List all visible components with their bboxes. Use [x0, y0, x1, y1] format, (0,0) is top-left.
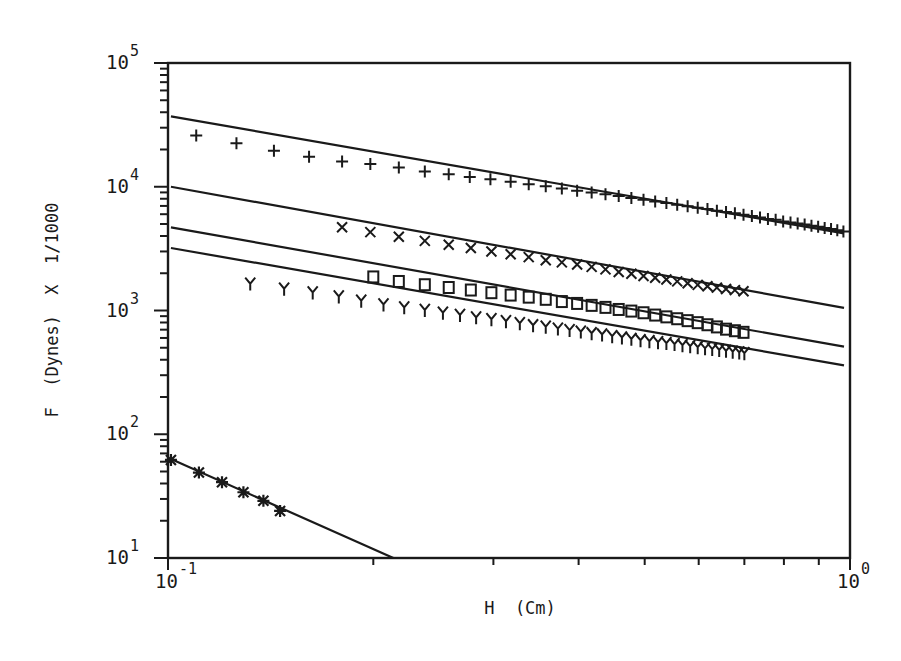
plus-marker: [649, 195, 661, 207]
y-marker: [607, 330, 617, 343]
y-axis-label: F (Dynes) X 1/1000: [42, 203, 62, 418]
x-tick-exponent: -1: [179, 560, 197, 578]
x-marker: [394, 232, 404, 242]
chart-canvas: 10110210310410510-1100 H (Cm) F (Dynes) …: [0, 0, 901, 661]
y-tick-exponent: 3: [130, 290, 139, 308]
x-marker: [365, 227, 375, 237]
y-marker: [279, 283, 289, 296]
y-tick-base: 10: [106, 175, 129, 197]
asterisk-marker: [257, 495, 269, 507]
plus-marker: [837, 225, 849, 237]
asterisk-marker: [274, 505, 286, 517]
x-tick-base: 10: [155, 570, 178, 592]
plus-marker: [738, 209, 750, 221]
plus-marker: [792, 217, 804, 229]
square-marker: [506, 290, 516, 301]
y-tick-label: 103: [106, 290, 139, 321]
y-marker: [308, 286, 318, 299]
fit-line-square: [171, 227, 844, 346]
plot-border: [168, 63, 850, 558]
plus-marker: [660, 197, 672, 209]
y-marker: [245, 278, 255, 291]
x-axis-label: H (Cm): [484, 598, 556, 618]
x-marker: [572, 260, 582, 270]
y-tick-base: 10: [106, 51, 129, 73]
series-plus: [190, 129, 849, 237]
plus-marker: [671, 199, 683, 211]
square-marker: [524, 292, 534, 303]
plus-marker: [443, 168, 455, 180]
plus-marker: [720, 206, 732, 218]
x-tick-label: 100: [837, 560, 870, 592]
plus-marker: [599, 188, 611, 200]
y-marker: [334, 290, 344, 303]
plus-marker: [784, 216, 796, 228]
plus-marker: [336, 155, 348, 167]
plus-marker: [393, 162, 405, 174]
plus-marker: [692, 202, 704, 214]
asterisk-marker: [237, 486, 249, 498]
plus-marker: [190, 129, 202, 141]
y-marker: [515, 317, 525, 330]
plus-marker: [638, 194, 650, 206]
y-marker: [553, 323, 563, 336]
y-tick-base: 10: [106, 546, 129, 568]
plus-marker: [754, 211, 766, 223]
plus-marker: [701, 203, 713, 215]
plus-marker: [419, 165, 431, 177]
series-x: [337, 222, 748, 296]
y-marker: [399, 301, 409, 314]
square-marker: [693, 317, 703, 328]
y-marker: [565, 324, 575, 337]
plot-frame: [168, 63, 850, 558]
plus-marker: [484, 173, 496, 185]
y-tick-exponent: 1: [130, 537, 139, 555]
y-marker: [541, 321, 551, 334]
y-tick-exponent: 4: [130, 166, 139, 184]
y-tick-label: 101: [106, 537, 139, 568]
square-marker: [368, 271, 378, 282]
square-marker: [394, 276, 404, 287]
y-tick-exponent: 2: [130, 413, 139, 431]
x-marker: [466, 243, 476, 253]
square-marker: [444, 282, 454, 293]
asterisk-marker: [193, 467, 205, 479]
y-marker: [356, 295, 366, 308]
plus-marker: [303, 151, 315, 163]
y-tick-base: 10: [106, 422, 129, 444]
plus-marker: [805, 220, 817, 232]
square-marker: [650, 310, 660, 321]
x-marker: [486, 246, 496, 256]
x-marker: [524, 252, 534, 262]
x-tick-label: 10-1: [155, 560, 197, 592]
y-tick-exponent: 5: [130, 42, 139, 60]
y-marker: [597, 328, 607, 341]
y-marker: [471, 311, 481, 324]
x-marker: [444, 240, 454, 250]
x-marker: [337, 222, 347, 232]
y-marker: [455, 309, 465, 322]
plus-marker: [831, 224, 843, 236]
x-marker: [557, 257, 567, 267]
y-marker: [420, 304, 430, 317]
plus-marker: [825, 223, 837, 235]
y-tick-label: 104: [106, 166, 139, 197]
plus-marker: [777, 215, 789, 227]
y-marker: [617, 332, 627, 345]
y-tick-base: 10: [106, 299, 129, 321]
asterisk-marker: [216, 476, 228, 488]
y-marker: [378, 298, 388, 311]
plus-marker: [505, 176, 517, 188]
plus-marker: [464, 171, 476, 183]
plus-marker: [799, 219, 811, 231]
data-markers: [165, 129, 849, 517]
square-marker: [466, 285, 476, 296]
chart: 10110210310410510-1100 H (Cm) F (Dynes) …: [0, 0, 901, 661]
plus-marker: [812, 221, 824, 233]
plus-marker: [613, 190, 625, 202]
y-tick-label: 102: [106, 413, 139, 444]
square-marker: [626, 306, 636, 317]
y-marker: [587, 327, 597, 340]
x-marker: [420, 236, 430, 246]
plus-marker: [230, 137, 242, 149]
